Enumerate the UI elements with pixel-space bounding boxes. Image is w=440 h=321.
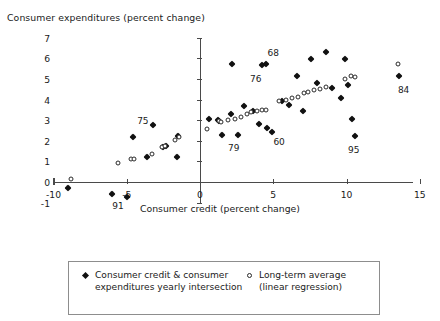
filled-diamond-icon bbox=[82, 272, 89, 279]
data-point-intersection bbox=[293, 72, 300, 79]
data-point-intersection bbox=[308, 56, 315, 63]
data-point-average bbox=[218, 120, 223, 125]
x-axis-label: Consumer credit (percent change) bbox=[0, 203, 440, 214]
x-tick-label-15: 15 bbox=[403, 189, 437, 200]
chart-legend: Consumer credit & consumer expenditures … bbox=[68, 261, 380, 315]
data-point-average bbox=[249, 109, 254, 114]
data-point-average bbox=[290, 95, 295, 100]
data-point-average bbox=[233, 117, 238, 122]
data-point-average bbox=[277, 98, 282, 103]
data-point-average bbox=[69, 176, 74, 181]
data-point-average bbox=[353, 74, 358, 79]
data-point-average bbox=[149, 152, 154, 157]
y-tick-2 bbox=[197, 141, 202, 142]
x-tick-10 bbox=[347, 179, 348, 184]
data-point-average bbox=[395, 61, 400, 66]
data-point-average bbox=[162, 143, 167, 148]
data-point-average bbox=[343, 77, 348, 82]
data-point-intersection bbox=[218, 131, 225, 138]
data-point-intersection bbox=[235, 131, 242, 138]
annotation-75: 75 bbox=[137, 116, 148, 126]
data-point-intersection bbox=[229, 60, 236, 67]
data-point-average bbox=[205, 127, 210, 132]
data-point-intersection bbox=[352, 132, 359, 139]
y-tick-label-6: 6 bbox=[28, 53, 50, 64]
x-tick-15 bbox=[420, 179, 421, 184]
data-point-average bbox=[115, 161, 120, 166]
legend-item-average: Long-term average (linear regression) bbox=[247, 270, 375, 293]
data-point-intersection bbox=[240, 102, 247, 109]
data-point-average bbox=[239, 115, 244, 120]
data-point-average bbox=[284, 97, 289, 102]
scatter-chart: Consumer expenditures (percent change) -… bbox=[0, 0, 440, 255]
annotation-68: 68 bbox=[268, 48, 279, 58]
annotation-76: 76 bbox=[250, 74, 261, 84]
data-point-intersection bbox=[255, 121, 262, 128]
data-point-intersection bbox=[341, 56, 348, 63]
x-tick-label-10: 10 bbox=[330, 189, 364, 200]
data-point-intersection bbox=[337, 94, 344, 101]
y-tick-label-2: 2 bbox=[28, 135, 50, 146]
y-tick-label-4: 4 bbox=[28, 94, 50, 105]
data-point-intersection bbox=[328, 85, 335, 92]
data-point-average bbox=[323, 85, 328, 90]
data-point-average bbox=[177, 134, 182, 139]
data-point-intersection bbox=[314, 80, 321, 87]
plot-area: -10-5051015-101234567 7591796068769584 bbox=[0, 0, 440, 255]
data-point-intersection bbox=[322, 49, 329, 56]
annotation-95: 95 bbox=[348, 145, 359, 155]
y-tick-label-0: 0 bbox=[28, 177, 50, 188]
legend-label-average: Long-term average (linear regression) bbox=[259, 270, 375, 293]
data-point-average bbox=[312, 88, 317, 93]
x-tick-label-5: 5 bbox=[256, 189, 290, 200]
x-axis-line bbox=[53, 182, 413, 183]
data-point-average bbox=[306, 90, 311, 95]
x-tick--5 bbox=[127, 179, 128, 184]
legend-item-intersection: Consumer credit & consumer expenditures … bbox=[83, 270, 243, 293]
data-point-intersection bbox=[173, 154, 180, 161]
y-tick-1 bbox=[197, 161, 202, 162]
y-tick-label-1: 1 bbox=[28, 156, 50, 167]
annotation-79: 79 bbox=[228, 143, 239, 153]
data-point-intersection bbox=[150, 122, 157, 129]
x-tick-label-0: 0 bbox=[183, 189, 217, 200]
data-point-average bbox=[225, 118, 230, 123]
data-point-average bbox=[318, 87, 323, 92]
y-tick-5 bbox=[197, 79, 202, 80]
y-tick-6 bbox=[197, 58, 202, 59]
y-tick-label-3: 3 bbox=[28, 115, 50, 126]
legend-label-intersection: Consumer credit & consumer expenditures … bbox=[95, 270, 243, 293]
data-point-intersection bbox=[396, 72, 403, 79]
data-point-average bbox=[132, 157, 137, 162]
annotation-60: 60 bbox=[273, 137, 284, 147]
annotation-84: 84 bbox=[398, 85, 409, 95]
x-tick-0 bbox=[200, 179, 201, 184]
x-axis-left-endcap bbox=[53, 178, 54, 185]
data-point-average bbox=[296, 94, 301, 99]
data-point-intersection bbox=[344, 82, 351, 89]
open-circle-icon bbox=[247, 273, 252, 278]
y-tick-label-5: 5 bbox=[28, 74, 50, 85]
data-point-intersection bbox=[299, 107, 306, 114]
data-point-intersection bbox=[129, 133, 136, 140]
y-tick-4 bbox=[197, 100, 202, 101]
data-point-intersection bbox=[286, 101, 293, 108]
data-point-intersection bbox=[205, 116, 212, 123]
y-tick-3 bbox=[197, 120, 202, 121]
y-tick-label-7: 7 bbox=[28, 32, 50, 43]
y-tick-7 bbox=[197, 38, 202, 39]
data-point-average bbox=[263, 107, 268, 112]
data-point-intersection bbox=[349, 116, 356, 123]
x-tick-5 bbox=[273, 179, 274, 184]
